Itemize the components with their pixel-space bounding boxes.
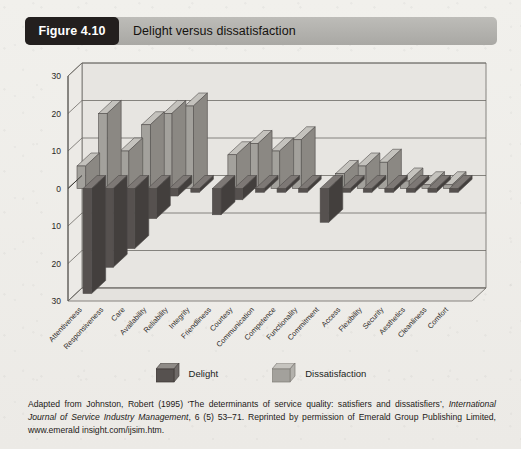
y-axis-tick-label: 0: [56, 184, 61, 194]
x-axis-category-label: Comfort: [426, 305, 451, 330]
x-axis-category-label: Responsiveness: [62, 305, 106, 351]
figure-number-tag: Figure 4.10: [25, 17, 119, 45]
bar-chart: 3020100102030AttentivenessResponsiveness…: [25, 58, 497, 358]
caption-line-1: Adapted from Johnston, Robert (1995) ‘Th…: [28, 399, 444, 409]
y-axis-tick-label: 10: [52, 221, 62, 231]
y-axis-tick-label: 30: [52, 296, 62, 306]
x-axis-category-label: Flexibility: [337, 305, 365, 334]
legend-swatch-delight: [156, 363, 180, 383]
y-axis-tick-label: 10: [52, 146, 62, 156]
legend-swatch-dissatisfaction: [272, 363, 296, 383]
legend-label-delight: Delight: [189, 368, 219, 379]
chart-area: 3020100102030AttentivenessResponsiveness…: [25, 58, 497, 388]
bar-3d: [185, 93, 208, 189]
figure-title: Delight versus dissatisfaction: [133, 17, 296, 45]
chart-legend: Delight Dissatisfaction: [25, 358, 497, 388]
legend-item-dissatisfaction: Dissatisfaction: [272, 363, 366, 383]
legend-item-delight: Delight: [156, 363, 219, 383]
x-axis-category-label: Care: [109, 305, 127, 323]
y-axis-tick-label: 20: [52, 109, 62, 119]
y-axis-tick-label: 30: [52, 71, 62, 81]
bar-3d: [105, 176, 128, 268]
figure-caption: Adapted from Johnston, Robert (1995) ‘Th…: [28, 398, 496, 437]
legend-label-dissatisfaction: Dissatisfaction: [305, 368, 366, 379]
y-axis-tick-label: 20: [52, 259, 62, 269]
bar-3d: [83, 176, 106, 294]
caption-line-2: , 6 (5) 53–71. Reprinted by permission o…: [188, 412, 418, 422]
bar-3d: [126, 176, 149, 249]
